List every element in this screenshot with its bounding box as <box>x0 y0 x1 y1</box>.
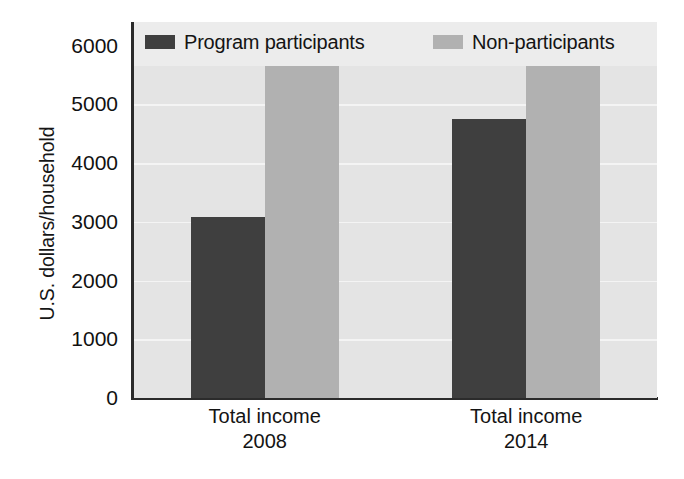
chart-legend: Program participantsNon-participants <box>134 22 657 66</box>
bar <box>191 217 265 398</box>
x-category-label-line2: 2008 <box>155 429 375 454</box>
y-axis-tick-labels: 0100020003000400050006000 <box>36 0 118 479</box>
bar-chart-figure: U.S. dollars/household 01000200030004000… <box>0 0 684 479</box>
y-tick-label: 6000 <box>36 34 118 58</box>
legend-item[interactable]: Program participants <box>145 26 365 58</box>
x-category-label-line1: Total income <box>209 405 321 427</box>
legend-label: Non-participants <box>472 31 614 54</box>
legend-label: Program participants <box>184 31 365 54</box>
x-category-label: Total income2008 <box>155 404 375 454</box>
bar <box>526 63 600 398</box>
y-tick-label: 4000 <box>36 151 118 175</box>
legend-item[interactable]: Non-participants <box>433 26 614 58</box>
x-category-label-line2: 2014 <box>416 429 636 454</box>
y-tick-label: 5000 <box>36 92 118 116</box>
y-tick-label: 1000 <box>36 327 118 351</box>
dark-swatch-icon <box>145 35 175 49</box>
x-category-label: Total income2014 <box>416 404 636 454</box>
plot-area <box>134 22 657 398</box>
bar <box>265 66 339 398</box>
x-category-label-line1: Total income <box>470 405 582 427</box>
bar <box>452 119 526 398</box>
light-swatch-icon <box>433 35 463 49</box>
y-tick-label: 0 <box>36 386 118 410</box>
y-tick-label: 3000 <box>36 210 118 234</box>
y-tick-label: 2000 <box>36 269 118 293</box>
